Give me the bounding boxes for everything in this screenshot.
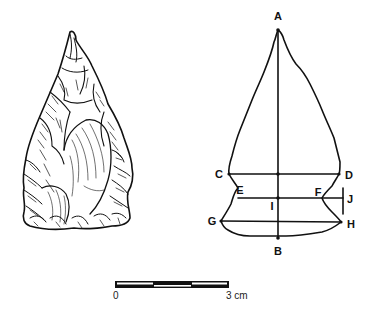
scale-bar <box>0 0 372 315</box>
scale-end-label: 3 cm <box>226 291 248 301</box>
projectile-point-figure: A B C D E F G H I J 0 3 cm <box>0 0 372 315</box>
scale-start-label: 0 <box>113 291 119 301</box>
